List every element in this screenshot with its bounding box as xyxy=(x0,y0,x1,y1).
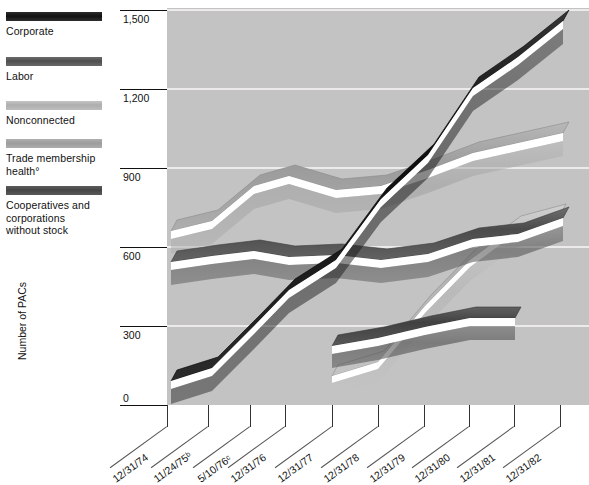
legend-label-trade-membership-health: Trade membership health° xyxy=(6,152,138,177)
x-tick-label-1: 11/24/75ᵇ xyxy=(151,449,194,485)
x-tick-3 xyxy=(285,405,286,427)
x-axis: 12/31/74 11/24/75ᵇ 5/10/76ᶜ 12/31/76 12/… xyxy=(0,405,589,481)
legend-swatch-nonconnected xyxy=(6,101,102,110)
chart-legend: Corporate Labor Nonconnected Trade membe… xyxy=(0,0,150,250)
x-tick-label-9: 12/31/82 xyxy=(503,451,543,485)
y-tick-label-1200: 1,200 xyxy=(123,92,149,104)
x-tick-label-3: 12/31/76 xyxy=(228,451,268,485)
legend-item-cooperatives: Cooperatives and corporations without st… xyxy=(6,186,138,237)
x-tick-label-8: 12/31/81 xyxy=(457,451,497,485)
legend-label-corporate: Corporate xyxy=(6,25,138,38)
x-tick-7 xyxy=(469,405,470,427)
chart-svg xyxy=(167,8,589,405)
x-tick-5 xyxy=(378,405,379,427)
x-tick-label-6: 12/31/79 xyxy=(367,451,407,485)
y-tickline-1500 xyxy=(120,10,167,11)
y-tick-label-300: 300 xyxy=(123,329,141,341)
x-tick-label-4: 12/31/77 xyxy=(275,451,315,485)
legend-label-cooperatives: Cooperatives and corporations without st… xyxy=(6,199,138,237)
x-tick-label-7: 12/31/80 xyxy=(412,451,452,485)
legend-swatch-cooperatives xyxy=(6,186,102,195)
legend-label-nonconnected: Nonconnected xyxy=(6,114,138,127)
x-tick-6 xyxy=(424,405,425,427)
x-tick-8 xyxy=(514,405,515,427)
legend-item-corporate: Corporate xyxy=(6,12,138,38)
legend-swatch-trade-membership-health xyxy=(6,139,102,148)
y-tick-label-1500: 1,500 xyxy=(123,13,149,25)
y-axis-title: Number of PACs xyxy=(16,271,28,371)
legend-item-labor: Labor xyxy=(6,57,138,83)
x-tick-2 xyxy=(250,405,251,427)
legend-item-trade-membership-health: Trade membership health° xyxy=(6,139,138,177)
y-tickline-1200 xyxy=(120,89,167,90)
y-tickline-600 xyxy=(120,247,167,248)
legend-label-labor: Labor xyxy=(6,70,138,83)
x-tick-4 xyxy=(332,405,333,427)
legend-swatch-corporate xyxy=(6,12,102,21)
plot-area xyxy=(167,8,589,405)
x-tick-0 xyxy=(167,405,168,427)
x-tick-9 xyxy=(560,405,561,427)
x-tick-label-5: 12/31/78 xyxy=(321,451,361,485)
legend-swatch-labor xyxy=(6,57,102,66)
y-tickline-900 xyxy=(120,168,167,169)
x-tick-1 xyxy=(208,405,209,427)
y-tick-label-600: 600 xyxy=(123,250,141,262)
y-tick-label-900: 900 xyxy=(123,171,141,183)
y-tick-label-0: 0 xyxy=(123,392,129,404)
x-tick-label-0: 12/31/74 xyxy=(110,451,150,485)
legend-item-nonconnected: Nonconnected xyxy=(6,101,138,127)
y-tickline-300 xyxy=(120,326,167,327)
